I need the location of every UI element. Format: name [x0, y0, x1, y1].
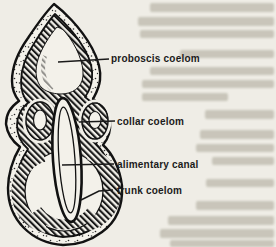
- label-alimentary-canal: alimentary canal: [117, 159, 199, 170]
- leader-collar-coelom: [79, 121, 115, 122]
- leader-alimentary-canal: [62, 164, 114, 165]
- label-proboscis-coelom: proboscis coelom: [111, 53, 200, 64]
- coelom-diagram: proboscis coelom collar coelom alimentar…: [0, 0, 276, 247]
- label-collar-coelom: collar coelom: [117, 116, 184, 127]
- label-trunk-coelom: trunk coelom: [117, 185, 182, 196]
- scanned-page: proboscis coelom collar coelom alimentar…: [0, 0, 276, 247]
